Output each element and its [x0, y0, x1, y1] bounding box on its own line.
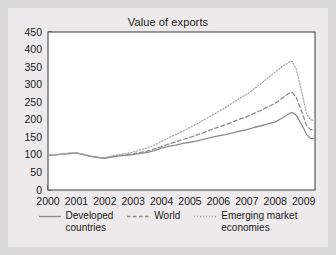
x-tick-label: 2001	[65, 195, 89, 207]
legend-swatch-solid-icon	[39, 212, 61, 221]
y-tick-label: 150	[24, 131, 42, 143]
legend-swatch-dashed-icon	[127, 212, 149, 221]
x-tick-label: 2004	[150, 195, 174, 207]
y-axis-tick-labels: 050100150200250300350400450	[24, 26, 42, 196]
y-tick-label: 100	[24, 148, 42, 160]
y-tick-label: 300	[24, 78, 42, 90]
legend-label: Emerging market economies	[221, 210, 297, 233]
y-tick-label: 350	[24, 61, 42, 73]
x-tick-label: 2007	[235, 195, 259, 207]
x-tick-label: 2008	[264, 195, 288, 207]
y-tick-label: 450	[24, 26, 42, 38]
y-tick-label: 250	[24, 96, 42, 108]
legend-label: Developed countries	[66, 210, 114, 233]
x-tick-label: 2003	[122, 195, 146, 207]
y-tick-label: 400	[24, 43, 42, 55]
x-tick-label: 2002	[93, 195, 117, 207]
legend-item-emerging-market-economies[interactable]: Emerging market economies	[194, 210, 297, 248]
chart-legend: Developed countries World Emerging marke…	[8, 210, 328, 248]
x-tick-label: 2000	[36, 195, 60, 207]
legend-swatch-dotted-icon	[194, 212, 216, 221]
legend-label: World	[154, 210, 180, 222]
y-tick-label: 0	[36, 184, 42, 196]
y-tick-label: 50	[30, 166, 42, 178]
x-tick-label: 2005	[178, 195, 202, 207]
chart-figure: Value of exports 05010015020025030035040…	[8, 8, 328, 247]
legend-item-world[interactable]: World	[127, 210, 180, 248]
y-tick-label: 200	[24, 113, 42, 125]
plot-frame	[48, 32, 315, 190]
x-tick-label: 2006	[207, 195, 231, 207]
x-axis-tick-labels: 2000200120022003200420052006200720082009	[36, 195, 315, 207]
x-tick-label: 2009	[292, 195, 316, 207]
legend-item-developed-countries[interactable]: Developed countries	[39, 210, 114, 248]
